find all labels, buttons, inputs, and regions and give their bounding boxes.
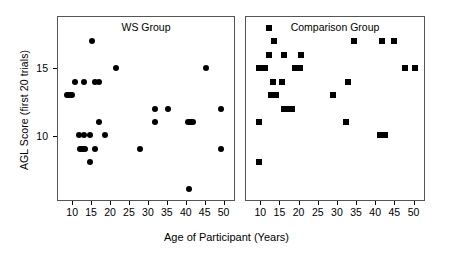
data-point-comparison [298,52,304,58]
data-point-comparison [292,65,303,71]
x-tick-mark [260,201,261,205]
y-tick-label: 15 [26,63,48,73]
x-tick-mark [414,201,415,205]
data-point-comparison [351,38,357,44]
data-point-ws [92,146,98,152]
x-tick-label: 50 [212,207,236,218]
x-tick-mark [110,201,111,205]
data-point-ws [203,65,209,71]
x-tick-mark [205,201,206,205]
data-point-ws [77,146,88,152]
x-tick-mark [318,201,319,205]
scatter-plot-figure: AGL Score (first 20 trials) 1015 WS Grou… [0,0,453,256]
y-tick-label: 10 [26,131,48,141]
x-tick-mark [299,201,300,205]
data-point-ws [96,79,102,85]
x-tick-mark [167,201,168,205]
data-point-comparison [273,92,279,98]
data-point-ws [186,186,192,192]
x-tick-mark [394,201,395,205]
x-tick-mark [148,201,149,205]
data-point-comparison [412,65,418,71]
panel-ws-group: WS Group [57,16,235,201]
x-tick-mark [129,201,130,205]
data-point-comparison [279,79,285,85]
data-point-ws [165,106,171,112]
data-point-ws [81,79,87,85]
plot-area-ws-group [58,17,234,200]
data-point-ws [113,65,119,71]
data-point-ws [152,119,158,125]
data-point-comparison [345,79,351,85]
data-point-comparison [281,52,287,58]
data-point-ws [64,92,75,98]
data-point-comparison [402,65,408,71]
data-point-ws [87,159,93,165]
data-point-ws [137,146,143,152]
data-point-comparison [266,25,272,31]
x-tick-mark [337,201,338,205]
x-tick-mark [279,201,280,205]
data-point-ws [218,146,224,152]
data-point-ws [96,119,102,125]
x-axis-title: Age of Participant (Years) [0,231,453,243]
data-point-ws [102,132,108,138]
data-point-comparison [266,52,272,58]
x-tick-label: 50 [402,207,426,218]
data-point-comparison [330,92,336,98]
x-tick-mark [224,201,225,205]
data-point-ws [72,79,78,85]
data-point-comparison [391,38,397,44]
x-tick-mark [186,201,187,205]
x-tick-mark [375,201,376,205]
x-tick-mark [72,201,73,205]
plot-area-comparison-group [246,17,424,200]
data-point-comparison [270,79,276,85]
data-point-comparison [377,132,388,138]
y-axis-title: AGL Score (first 20 trials) [18,10,30,210]
x-tick-mark [356,201,357,205]
panel-comparison-group: Comparison Group [245,16,425,201]
data-point-ws [185,119,196,125]
x-tick-mark [91,201,92,205]
data-point-comparison [256,119,262,125]
data-point-comparison [262,65,268,71]
data-point-ws [218,106,224,112]
data-point-comparison [343,119,349,125]
data-point-comparison [379,38,385,44]
data-point-ws [152,106,158,112]
data-point-ws [87,132,93,138]
data-point-comparison [284,106,295,112]
data-point-comparison [256,159,262,165]
data-point-ws [89,38,95,44]
data-point-comparison [271,38,277,44]
